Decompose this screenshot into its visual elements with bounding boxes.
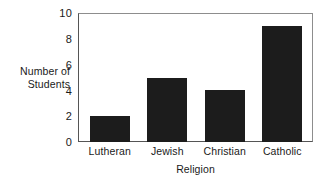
- bar-lutheran: [90, 116, 130, 142]
- bar-series: [78, 13, 313, 142]
- x-axis-title: Religion: [78, 163, 313, 175]
- x-tick-label-catholic: Catholic: [254, 145, 312, 157]
- y-tick-label-4: 4: [52, 86, 72, 97]
- bar-catholic: [262, 26, 302, 142]
- y-tick-label-6: 6: [52, 60, 72, 71]
- bar-jewish: [147, 78, 187, 143]
- bar-slot-catholic: [254, 13, 312, 142]
- y-tick-label-8: 8: [52, 34, 72, 45]
- x-axis-tick-labels: Lutheran Jewish Christian Catholic: [78, 145, 313, 157]
- x-tick-label-jewish: Jewish: [139, 145, 197, 157]
- plot-area: [78, 13, 313, 142]
- y-tick-label-0: 0: [52, 137, 72, 148]
- bar-chart: Number of Students 10 8 6 4 2 0: [0, 0, 324, 182]
- bar-slot-christian: [196, 13, 254, 142]
- y-tick-label-2: 2: [52, 111, 72, 122]
- bar-christian: [205, 90, 245, 142]
- y-tick-label-10: 10: [52, 8, 72, 19]
- x-tick-label-lutheran: Lutheran: [81, 145, 139, 157]
- bar-slot-lutheran: [81, 13, 139, 142]
- bar-slot-jewish: [139, 13, 197, 142]
- x-tick-label-christian: Christian: [196, 145, 254, 157]
